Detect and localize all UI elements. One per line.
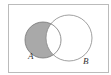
set-a-label: A <box>27 51 34 61</box>
set-b-label: B <box>83 56 89 66</box>
venn-diagram: A B <box>0 0 111 75</box>
